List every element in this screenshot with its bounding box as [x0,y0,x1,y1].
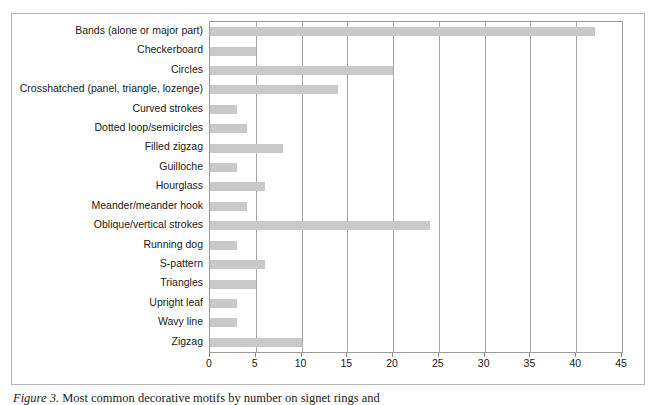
bar [210,163,237,172]
figure-caption: Figure 3. Most common decorative motifs … [13,391,653,405]
bar [210,124,247,133]
bar-row [210,61,622,80]
bar-row [210,80,622,99]
bar [210,144,283,153]
x-tick-label: 45 [615,357,627,369]
category-axis-labels: Bands (alone or major part)CheckerboardC… [11,21,207,353]
bar-row [210,41,622,60]
x-tick-label: 30 [478,357,490,369]
bar-row [210,100,622,119]
category-label: Curved strokes [132,99,203,118]
bar-row [210,236,622,255]
bar [210,338,302,347]
figure-root: Bands (alone or major part)CheckerboardC… [0,0,660,405]
bar-row [210,313,622,332]
bar [210,66,393,75]
bar [210,299,237,308]
bar [210,260,265,269]
bar [210,318,237,327]
x-tick-label: 40 [569,357,581,369]
x-tick-label: 25 [432,357,444,369]
category-label: Crosshatched (panel, triangle, lozenge) [20,79,203,98]
bar [210,105,237,114]
bar [210,27,595,36]
caption-text: Most common decorative motifs by number … [62,391,380,405]
bar [210,85,338,94]
category-label: Hourglass [156,176,203,195]
x-axis: 051015202530354045 [198,353,623,373]
category-label: Dotted loop/semicircles [94,118,203,137]
category-label: Checkerboard [137,40,203,59]
bar [210,47,256,56]
bar-row [210,333,622,352]
category-label: Filled zigzag [145,137,203,156]
x-tick-label: 20 [386,357,398,369]
plot-area [209,21,623,353]
caption-label: Figure 3. [13,391,59,405]
category-label: Bands (alone or major part) [75,21,203,40]
bar-row [210,138,622,157]
category-label: S-pattern [160,254,203,273]
bar [210,182,265,191]
plot-wrapper [198,21,623,365]
category-label: Meander/meander hook [92,196,204,215]
x-tick-label: 10 [295,357,307,369]
bar [210,221,430,230]
x-tick-label: 15 [340,357,352,369]
bar-row [210,177,622,196]
bar-row [210,22,622,41]
category-label: Upright leaf [149,293,203,312]
bar [210,241,237,250]
category-label: Guilloche [159,157,203,176]
x-tick-label: 35 [524,357,536,369]
x-tick-label: 0 [206,357,212,369]
bar [210,202,247,211]
bar [210,280,256,289]
category-label: Wavy line [158,312,203,331]
bar-row [210,119,622,138]
x-tick-label: 5 [252,357,258,369]
bar-row [210,274,622,293]
category-label: Oblique/vertical strokes [94,215,203,234]
category-label: Triangles [160,273,203,292]
bar-row [210,158,622,177]
category-label: Running dog [143,235,203,254]
bar-row [210,294,622,313]
bar-row [210,197,622,216]
bar-row [210,216,622,235]
bar-row [210,255,622,274]
bar-series [210,22,622,352]
